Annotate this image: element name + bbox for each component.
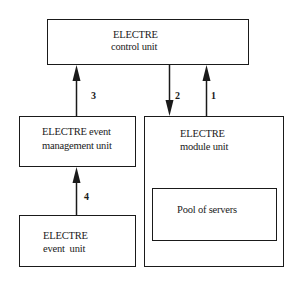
arrow-3-up-icon xyxy=(73,65,81,116)
edge-label-2: 2 xyxy=(175,90,180,101)
edge-label-3: 3 xyxy=(91,90,96,101)
arrow-2-down-icon xyxy=(166,65,174,116)
arrow-1-up-icon xyxy=(203,65,211,116)
edge-label-1: 1 xyxy=(211,90,216,101)
edge-label-4: 4 xyxy=(84,191,89,202)
connector-arrows xyxy=(0,0,297,281)
arrow-4-up-icon xyxy=(73,167,81,215)
